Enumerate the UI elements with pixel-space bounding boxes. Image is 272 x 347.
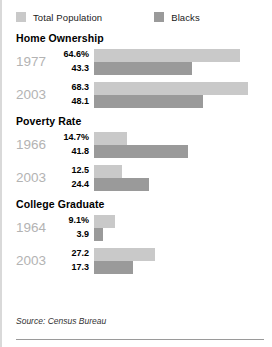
chart-year-group: 19649.1%3.9 (16, 214, 272, 241)
legend-label-blacks: Blacks (171, 12, 200, 23)
bar-pair (94, 82, 272, 108)
bar-blacks (94, 228, 103, 241)
value-label-total: 12.5 (56, 164, 89, 178)
value-labels: 64.6%43.3 (56, 48, 94, 75)
bar-total (94, 49, 240, 62)
value-labels: 68.348.1 (56, 81, 94, 108)
bar-total (94, 165, 122, 178)
legend-item-total-population: Total Population (16, 12, 102, 23)
chart-section: Poverty Rate196614.7%41.8200312.524.4 (16, 115, 272, 191)
year-label: 2003 (16, 81, 56, 108)
year-label: 2003 (16, 164, 56, 191)
value-label-blacks: 3.9 (56, 228, 89, 242)
bar-pair (94, 49, 272, 75)
bar-pair (94, 248, 272, 274)
value-labels: 9.1%3.9 (56, 214, 94, 241)
value-label-total: 27.2 (56, 247, 89, 261)
bar-pair (94, 165, 272, 191)
legend-swatch-icon (154, 12, 164, 22)
chart-sections: Home Ownership197764.6%43.3200368.348.1P… (16, 32, 272, 274)
year-label: 1966 (16, 131, 56, 158)
chart-year-group: 197764.6%43.3 (16, 48, 272, 75)
chart-section: Home Ownership197764.6%43.3200368.348.1 (16, 32, 272, 108)
value-labels: 27.217.3 (56, 247, 94, 274)
value-labels: 14.7%41.8 (56, 131, 94, 158)
section-title: College Graduate (16, 198, 272, 210)
value-label-total: 14.7% (56, 131, 89, 145)
value-label-blacks: 17.3 (56, 261, 89, 275)
legend-label-total-population: Total Population (33, 12, 102, 23)
chart-year-group: 200312.524.4 (16, 164, 272, 191)
value-label-blacks: 24.4 (56, 178, 89, 192)
bar-total (94, 132, 127, 145)
value-label-total: 68.3 (56, 81, 89, 95)
footer-divider (16, 339, 264, 340)
year-label: 1964 (16, 214, 56, 241)
bar-blacks (94, 261, 133, 274)
value-label-total: 64.6% (56, 48, 89, 62)
section-title: Home Ownership (16, 32, 272, 44)
section-title: Poverty Rate (16, 115, 272, 127)
year-label: 1977 (16, 48, 56, 75)
source-note: Source: Census Bureau (16, 316, 106, 326)
value-label-blacks: 48.1 (56, 95, 89, 109)
bar-pair (94, 132, 272, 158)
chart-year-group: 196614.7%41.8 (16, 131, 272, 158)
bar-total (94, 248, 155, 261)
legend-swatch-icon (16, 12, 26, 22)
year-label: 2003 (16, 247, 56, 274)
bar-blacks (94, 178, 149, 191)
chart-card: Total Population Blacks Home Ownership19… (0, 0, 272, 347)
value-label-total: 9.1% (56, 214, 89, 228)
legend-item-blacks: Blacks (154, 12, 200, 23)
chart-section: College Graduate19649.1%3.9200327.217.3 (16, 198, 272, 274)
chart-year-group: 200368.348.1 (16, 81, 272, 108)
bar-blacks (94, 95, 203, 108)
value-labels: 12.524.4 (56, 164, 94, 191)
chart-year-group: 200327.217.3 (16, 247, 272, 274)
bar-blacks (94, 145, 188, 158)
bar-total (94, 215, 115, 228)
bar-pair (94, 215, 272, 241)
bar-blacks (94, 62, 192, 75)
value-label-blacks: 43.3 (56, 62, 89, 76)
chart-legend: Total Population Blacks (16, 0, 272, 25)
bar-total (94, 82, 248, 95)
value-label-blacks: 41.8 (56, 145, 89, 159)
